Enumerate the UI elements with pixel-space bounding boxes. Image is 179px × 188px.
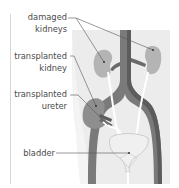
label-kidneys-line2: kidneys xyxy=(28,23,67,35)
kidney-transplant-diagram: damaged kidneys transplanted kidney tran… xyxy=(0,0,179,188)
pointer-dot-transplanted-kidney xyxy=(95,105,97,107)
label-damaged-kidneys: damaged kidneys xyxy=(28,11,67,35)
label-transplanted-kidney: transplanted kidney xyxy=(14,50,67,74)
label-transplanted-ureter-line1: transplanted xyxy=(14,88,67,100)
label-transplanted-ureter: transplanted ureter xyxy=(14,88,67,112)
pointer-dot-damaged-right xyxy=(152,49,154,51)
label-kidney-line2: kidney xyxy=(14,62,67,74)
label-ureter-line2: ureter xyxy=(14,100,67,112)
label-transplanted-line1: transplanted xyxy=(14,50,67,62)
label-bladder-text: bladder xyxy=(23,147,55,159)
damaged-kidney-left xyxy=(94,50,113,78)
pointer-dot-damaged-left xyxy=(103,61,105,63)
label-damaged-line1: damaged xyxy=(28,11,67,23)
label-bladder: bladder xyxy=(23,147,55,159)
pointer-dot-bladder xyxy=(128,152,130,154)
